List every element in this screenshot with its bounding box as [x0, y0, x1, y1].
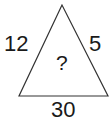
center-question-mark: ? [56, 52, 68, 73]
left-side-number: 12 [4, 33, 28, 55]
base-number: 30 [51, 99, 75, 121]
right-side-number: 5 [89, 33, 101, 55]
